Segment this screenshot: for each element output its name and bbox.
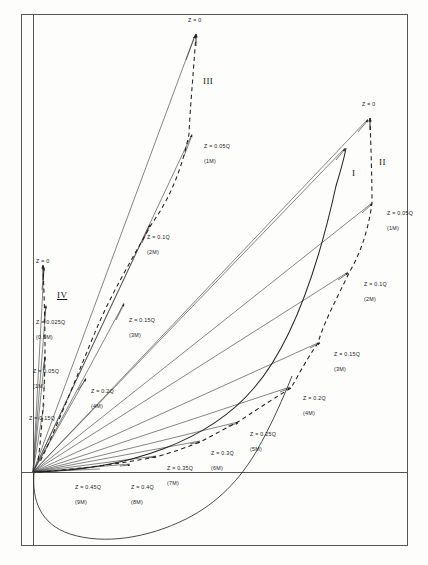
curve-label-z-value: Z = 0.1Q [364,281,387,287]
curve-label-mass-value: (7M) [167,480,179,486]
curve-label-mass-value: (9M) [75,499,87,505]
curve-label-mass-value: (1M) [33,383,45,389]
z-endpoint-label-region-III: Z = 0 [188,17,202,24]
curve-label-z025: Z = 0.25Q (5M) [243,424,276,460]
figure-container: I II III IV Z = 0 Z = 0 Z = 0 Z = 0.05Q … [0,0,428,565]
curve-label-z015-region-III: Z = 0.15Q (3M) [122,310,155,346]
region-label-III: III [203,76,213,86]
curve-label-z0025-region-IV: Z = 0.025Q (0.5M) [29,312,65,348]
curve-label-z005-region-IV: Z = 0.05Q (1M) [26,361,59,397]
curve-label-z-value: Z = 0.15Q [334,351,360,357]
curve-label-z005-region-II: Z = 0.05Q (1M) [380,203,413,239]
curve-label-z-value: Z = 0.025Q [36,319,65,325]
curve-label-mass-value: (4M) [303,410,315,416]
region-label-II: II [379,157,386,167]
curve-label-z-value: Z = 0.4Q [131,484,154,490]
curve-label-z-value: Z = 0.2Q [91,388,114,394]
curve-label-mass-value: (3M) [129,332,141,338]
curve-label-z-value: Z = 0.35Q [167,465,193,471]
curve-label-z-value: Z = 0.3Q [211,450,234,456]
curve-label-z-value: Z = 0.15Q [129,317,155,323]
curve-label-mass-value: (3M) [334,366,346,372]
curve-label-z015-region-IV: Z = 0.15Q [22,408,55,430]
z-endpoint-label-region-IV: Z = 0 [36,258,50,265]
curve-label-mass-value: (2M) [147,249,159,255]
curve-label-z010-region-III: Z = 0.1Q (2M) [140,227,170,263]
curve-label-z010-region-II: Z = 0.1Q (2M) [357,274,387,310]
curve-label-z-value: Z = 0.15Q [29,415,55,421]
curve-label-mass-value: (0.5M) [36,334,53,340]
curve-label-z-value: Z = 0.45Q [75,484,101,490]
curve-label-mass-value: (2M) [364,296,376,302]
curve-label-z005-region-III: Z = 0.05Q (1M) [197,136,230,172]
curve-label-mass-value: (8M) [131,499,143,505]
curve-label-z-value: Z = 0.05Q [33,368,59,374]
curve-label-mass-value: (1M) [387,225,399,231]
curve-label-z035: Z = 0.35Q (7M) [160,458,193,494]
curve-label-z030: Z = 0.3Q (6M) [204,443,234,479]
curve-label-z-value: Z = 0.1Q [147,234,170,240]
curve-label-z020-region-III: Z = 0.2Q (4M) [84,381,114,417]
curve-label-mass-value: (4M) [91,403,103,409]
curve-label-z-value: Z = 0.05Q [387,210,413,216]
curve-label-z-value: Z = 0.25Q [250,431,276,437]
curve-label-mass-value: (1M) [204,158,216,164]
curve-label-z040: Z = 0.4Q (8M) [124,477,154,513]
region-label-IV: IV [57,290,67,300]
curve-label-z045: Z = 0.45Q (9M) [68,477,101,513]
curve-label-z-value: Z = 0.05Q [204,143,230,149]
curve-label-z-value: Z = 0.2Q [303,395,326,401]
curve-label-mass-value: (6M) [211,465,223,471]
curve-label-z020-region-II: Z = 0.2Q (4M) [296,388,326,424]
region-label-I: I [352,168,355,178]
curve-label-mass-value: (5M) [250,446,262,452]
curve-label-z015-region-II: Z = 0.15Q (3M) [327,344,360,380]
z-endpoint-label-region-II: Z = 0 [362,101,376,108]
